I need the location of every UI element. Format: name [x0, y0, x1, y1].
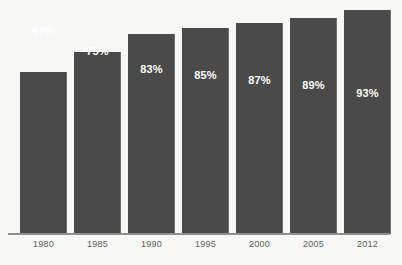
bar-value-label: 67%	[20, 25, 67, 37]
x-axis-label-2000: 2000	[236, 239, 283, 249]
bar	[236, 23, 283, 234]
bar-group: 67%	[20, 0, 67, 234]
bar	[20, 72, 67, 234]
bar-value-label: 89%	[290, 79, 337, 91]
bar	[182, 28, 229, 234]
x-axis-label-2012: 2012	[344, 239, 391, 249]
bar-group: 87%	[236, 0, 283, 234]
bar-value-label: 85%	[182, 69, 229, 81]
bar	[344, 10, 391, 234]
bar-value-label: 87%	[236, 74, 283, 86]
bar-group: 75%	[74, 0, 121, 234]
bar-chart: 67%75%83%85%87%89%93% 198019851990199520…	[0, 0, 402, 265]
bar	[74, 52, 121, 234]
x-axis-label-2005: 2005	[290, 239, 337, 249]
bar-value-label: 83%	[128, 63, 175, 75]
x-axis-label-1985: 1985	[74, 239, 121, 249]
x-axis-tick-labels: 1980198519901995200020052012	[0, 239, 402, 259]
bar-group: 89%	[290, 0, 337, 234]
bar-group: 83%	[128, 0, 175, 234]
bar-value-label: 93%	[344, 87, 391, 99]
x-axis-label-1990: 1990	[128, 239, 175, 249]
x-axis-line	[8, 233, 390, 235]
plot-area: 67%75%83%85%87%89%93%	[0, 0, 402, 234]
bar-group: 93%	[344, 0, 391, 234]
x-axis-label-1995: 1995	[182, 239, 229, 249]
bar	[290, 18, 337, 234]
bar-value-label: 75%	[74, 45, 121, 57]
x-axis-label-1980: 1980	[20, 239, 67, 249]
bar-group: 85%	[182, 0, 229, 234]
